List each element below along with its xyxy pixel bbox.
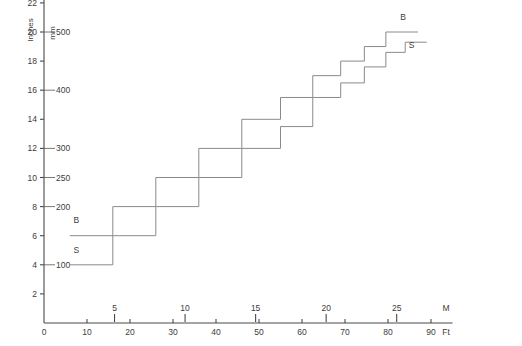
chart-background [0,0,522,346]
x-tick-label-m: 15 [251,303,261,313]
y-tick-label-mm: 250 [56,173,70,183]
x-axis-title-ft: Ft [442,327,450,337]
y-tick-label: 12 [28,143,38,153]
x-tick-label-m: 5 [112,303,117,313]
y-tick-label: 10 [28,173,38,183]
x-tick-label: 50 [254,327,264,337]
x-tick-label: 60 [297,327,307,337]
x-tick-label: 20 [125,327,135,337]
x-axis-title-m: M [443,303,450,313]
y-tick-label: 6 [32,231,37,241]
x-tick-label: 10 [82,327,92,337]
y-tick-label-mm: 500 [56,27,70,37]
series-label-s-start: S [73,245,79,255]
x-tick-label: 70 [340,327,350,337]
x-tick-label-m: 10 [180,303,190,313]
x-tick-label-m: 20 [321,303,331,313]
x-tick-label: 0 [42,327,47,337]
step-chart: 246810121416182022 0102030405060708090 1… [0,0,522,346]
y-tick-label: 2 [32,289,37,299]
y-tick-label-mm: 400 [56,85,70,95]
x-tick-label: 40 [211,327,221,337]
x-tick-label-m: 25 [392,303,402,313]
series-label-s-end: S [409,40,415,50]
y-tick-label-mm: 200 [56,202,70,212]
y-tick-label-mm: 300 [56,143,70,153]
y-tick-label: 18 [28,56,38,66]
y-axis-title-mm: mm [48,26,57,40]
y-tick-label: 4 [32,260,37,270]
series-label-b-end: B [400,12,406,22]
x-tick-label: 80 [383,327,393,337]
y-tick-label: 14 [28,114,38,124]
series-label-b-start: B [73,215,79,225]
x-tick-label: 90 [426,327,436,337]
x-tick-label: 30 [168,327,178,337]
y-axis-title-inches: Inches [26,18,35,42]
y-tick-label-mm: 100 [56,260,70,270]
chart-canvas: 246810121416182022 0102030405060708090 1… [0,0,522,346]
y-tick-label: 8 [32,202,37,212]
y-tick-label: 16 [28,85,38,95]
y-tick-label: 22 [28,0,38,8]
